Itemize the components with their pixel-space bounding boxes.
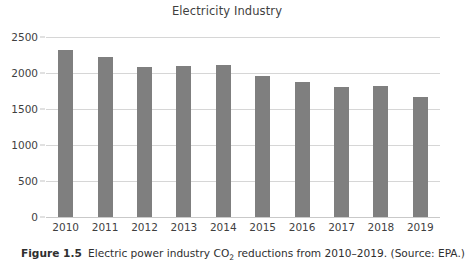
y-axis-tick-mark bbox=[40, 181, 45, 182]
y-axis-tick-mark bbox=[40, 109, 45, 110]
bar-2017 bbox=[334, 87, 349, 217]
y-axis-tick-label: 0 bbox=[0, 211, 38, 223]
y-axis-tick-label: 1500 bbox=[0, 103, 38, 115]
bar-chart: Electricity Industry 0500100015002000250… bbox=[0, 0, 454, 240]
bar-2015 bbox=[255, 76, 270, 217]
plot-area bbox=[46, 37, 440, 217]
x-axis-labels: 2010201120122013201420152016201720182019 bbox=[46, 221, 440, 237]
figure-caption: Figure 1.5 Electric power industry CO2 r… bbox=[0, 247, 454, 267]
caption-body: Electric power industry CO2 reductions f… bbox=[88, 247, 465, 262]
x-axis-tick-label: 2015 bbox=[243, 221, 283, 233]
bar-2010 bbox=[58, 50, 73, 217]
x-axis-tick-label: 2014 bbox=[203, 221, 243, 233]
y-axis-tick-label: 2000 bbox=[0, 67, 38, 79]
bar-2018 bbox=[373, 86, 388, 217]
x-axis-tick-label: 2013 bbox=[164, 221, 204, 233]
gridline-2500 bbox=[46, 37, 440, 38]
y-axis-tick-label: 1000 bbox=[0, 139, 38, 151]
y-axis-tick-mark bbox=[40, 73, 45, 74]
y-axis-tick-mark bbox=[40, 217, 45, 218]
y-axis-tick-label: 500 bbox=[0, 175, 38, 187]
y-axis-tick-mark bbox=[40, 145, 45, 146]
bar-2013 bbox=[176, 66, 191, 217]
caption-text-part-1: Electric power industry CO bbox=[88, 247, 229, 259]
x-axis-tick-label: 2017 bbox=[322, 221, 362, 233]
x-axis-tick-label: 2018 bbox=[361, 221, 401, 233]
bar-2016 bbox=[295, 82, 310, 217]
x-axis-tick-label: 2019 bbox=[400, 221, 440, 233]
y-axis-labels: 05001000150020002500 bbox=[0, 37, 38, 217]
x-axis-tick-label: 2010 bbox=[46, 221, 86, 233]
gridline-0 bbox=[46, 217, 440, 218]
y-axis-tick-label: 2500 bbox=[0, 31, 38, 43]
chart-title: Electricity Industry bbox=[0, 4, 454, 18]
caption-text-part-2: reductions from 2010–2019. (Source: EPA.… bbox=[234, 247, 465, 259]
bar-2014 bbox=[216, 65, 231, 217]
x-axis-tick-label: 2011 bbox=[85, 221, 125, 233]
caption-figure-number: Figure 1.5 bbox=[21, 247, 82, 259]
x-axis-tick-label: 2012 bbox=[125, 221, 165, 233]
x-axis-tick-label: 2016 bbox=[282, 221, 322, 233]
bar-2011 bbox=[98, 57, 113, 217]
bar-2012 bbox=[137, 67, 152, 217]
y-axis-tick-mark bbox=[40, 37, 45, 38]
bar-2019 bbox=[413, 97, 428, 217]
